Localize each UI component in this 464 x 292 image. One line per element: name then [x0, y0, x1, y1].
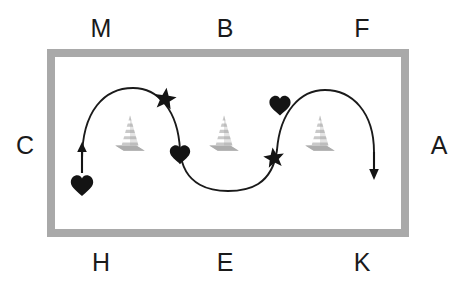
arena-letter-b: B: [208, 16, 242, 41]
arena-letter-h: H: [84, 250, 118, 275]
arena-letter-e: E: [208, 250, 242, 275]
arena-rectangle: [47, 49, 409, 237]
arena-letter-m: M: [84, 16, 118, 41]
arena-letter-k: K: [345, 250, 379, 275]
arena-letter-f: F: [345, 16, 379, 41]
arena-letter-c: C: [8, 133, 42, 158]
arena-letter-a: A: [422, 133, 456, 158]
arena-diagram: M B F C A H E K: [0, 0, 464, 292]
